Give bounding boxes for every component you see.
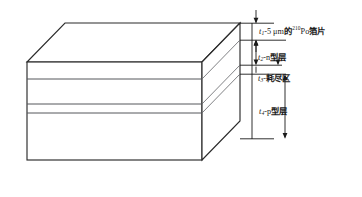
callout-material-t4: 型层 — [271, 106, 287, 116]
arrowhead-t1-down — [254, 18, 259, 24]
callout-material-t3: 耗尽区 — [266, 73, 290, 83]
arrowhead-t2-up — [254, 40, 259, 46]
figure-container: t1-5 μm的210Po箔片 t2-n型层 t3-耗尽区 t4-p型层 — [0, 0, 362, 197]
callout-label-ntype: t2-n型层 — [258, 53, 287, 62]
callout-value-t1: 5 μm — [267, 27, 284, 36]
callout-isotope-mass-t1: 210 — [292, 25, 300, 31]
callout-material-t1: 箔片 — [309, 26, 325, 36]
callout-material-t2: 型层 — [270, 52, 286, 62]
callout-label-foil: t1-5 μm的210Po箔片 — [259, 27, 326, 36]
front-face — [27, 62, 202, 160]
slab-body — [27, 23, 240, 160]
callout-label-ptype: t4-p型层 — [259, 107, 288, 116]
callout-label-depletion: t3-耗尽区 — [258, 74, 290, 83]
arrowhead-t4-down — [283, 133, 288, 139]
callout-connector-t1: 的 — [284, 26, 292, 36]
